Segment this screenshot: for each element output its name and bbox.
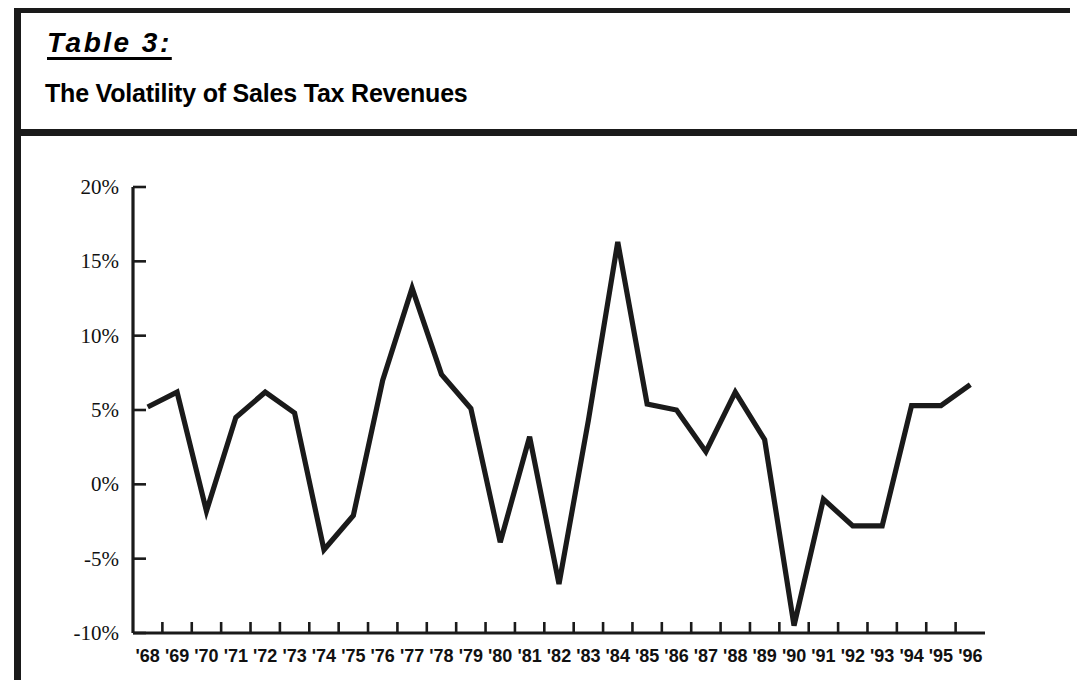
x-axis-tick-label: '77 <box>400 646 424 666</box>
x-axis-tick-label: '91 <box>811 646 835 666</box>
x-axis-tick-label: '68 <box>136 646 160 666</box>
x-axis-tick-label: '74 <box>312 646 336 666</box>
figure-frame: Table 3: The Volatility of Sales Tax Rev… <box>14 8 1070 680</box>
x-axis-tick-label: '75 <box>341 646 365 666</box>
x-axis-tick-label: '92 <box>841 646 865 666</box>
x-axis-tick-label: '76 <box>371 646 395 666</box>
x-axis-tick-label: '90 <box>782 646 806 666</box>
x-axis-tick-label: '88 <box>723 646 747 666</box>
x-axis-tick-labels: '68'69'70'71'72'73'74'75'76'77'78'79'80'… <box>136 646 983 666</box>
x-axis-tick-label: '94 <box>899 646 923 666</box>
x-axis-tick-label: '85 <box>635 646 659 666</box>
x-axis-tick-label: '78 <box>429 646 453 666</box>
y-axis-tick-label: -10% <box>74 621 120 645</box>
x-axis-tick-label: '82 <box>547 646 571 666</box>
figure-header: Table 3: The Volatility of Sales Tax Rev… <box>21 13 1070 134</box>
x-axis-tick-label: '72 <box>253 646 277 666</box>
y-axis-tick-label: 0% <box>91 472 119 496</box>
y-axis-tick-label: 20% <box>81 175 120 199</box>
chart-plot-area: 20%15%10%5%0%-5%-10% '68'69'70'71'72'73'… <box>21 136 1077 681</box>
x-axis-tick-label: '70 <box>194 646 218 666</box>
line-chart: 20%15%10%5%0%-5%-10% '68'69'70'71'72'73'… <box>21 136 1077 681</box>
y-axis: 20%15%10%5%0%-5%-10% <box>74 175 147 645</box>
x-axis-tick-label: '79 <box>459 646 483 666</box>
y-axis-tick-label: -5% <box>84 547 119 571</box>
x-axis-tick-label: '81 <box>517 646 541 666</box>
y-axis-tick-label: 5% <box>91 398 119 422</box>
x-axis-tick-label: '69 <box>165 646 189 666</box>
header-divider-rule <box>21 129 1077 136</box>
x-axis-tick-label: '83 <box>576 646 600 666</box>
y-axis-tick-label: 15% <box>81 249 120 273</box>
data-series <box>148 242 971 626</box>
x-axis-tick-label: '84 <box>606 646 630 666</box>
figure-title: The Volatility of Sales Tax Revenues <box>45 79 468 108</box>
series-sales-tax-growth <box>148 242 971 626</box>
x-axis-tick-label: '95 <box>929 646 953 666</box>
x-axis-tick-label: '89 <box>752 646 776 666</box>
x-axis-tick-label: '93 <box>870 646 894 666</box>
x-axis-tick-label: '86 <box>664 646 688 666</box>
x-axis-tick-label: '87 <box>694 646 718 666</box>
table-number-label: Table 3: <box>47 27 172 59</box>
x-axis-tick-label: '73 <box>282 646 306 666</box>
x-axis-tick-label: '96 <box>958 646 982 666</box>
y-axis-tick-label: 10% <box>81 324 120 348</box>
x-axis <box>133 622 985 633</box>
x-axis-tick-label: '71 <box>224 646 248 666</box>
x-axis-tick-label: '80 <box>488 646 512 666</box>
